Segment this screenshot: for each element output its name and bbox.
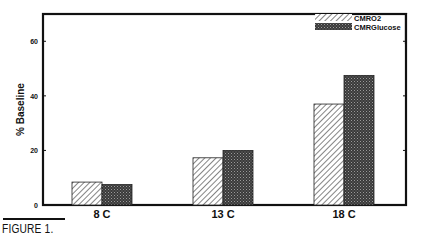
x-tick-label: 13 C [211,208,234,220]
bar-cmrglucose-18c [344,75,374,205]
legend-label-cmrglucose: CMRGlucose [354,23,401,32]
legend: CMRO2CMRGlucose [315,13,421,44]
caption-rule [3,218,65,220]
y-tick-label: 20 [30,147,38,154]
bar-chart: 0204060% Baseline8 C13 C18 C CMRO2CMRGlu… [0,0,421,237]
axis-labels: 0204060% Baseline8 C13 C18 C [15,38,356,220]
legend-label-cmro2: CMRO2 [354,14,381,23]
figure-caption: FIGURE 1. [2,222,53,236]
legend-clip [407,14,421,44]
y-tick-label: 0 [34,202,38,209]
y-tick-label: 60 [30,38,38,45]
bar-cmrglucose-8c [102,185,132,205]
y-tick-label: 40 [30,93,38,100]
bar-cmrglucose-13c [223,150,253,205]
bar-cmro2-18c [314,104,344,205]
x-tick-label: 18 C [332,208,355,220]
y-axis-label: % Baseline [15,83,26,136]
x-tick-label: 8 C [93,208,110,220]
legend-swatch-cmro2 [315,14,352,21]
bars [72,75,374,205]
bar-cmro2-13c [193,158,223,205]
legend-swatch-cmrglucose [315,23,352,30]
bar-cmro2-8c [72,182,102,205]
